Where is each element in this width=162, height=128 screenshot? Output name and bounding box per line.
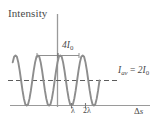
average-intensity-label: Iav = 2I0 xyxy=(118,66,149,76)
interference-intensity-figure: Intensity 4I0 Iav = 2I0 λ 2λ Δs xyxy=(0,0,162,128)
x-axis-label: Δs xyxy=(134,107,143,116)
peak-intensity-label: 4I0 xyxy=(62,41,73,51)
x-tick-label-2lambda: 2λ xyxy=(83,107,91,115)
x-tick-label-lambda: λ xyxy=(71,107,75,115)
y-axis-label: Intensity xyxy=(8,8,47,19)
